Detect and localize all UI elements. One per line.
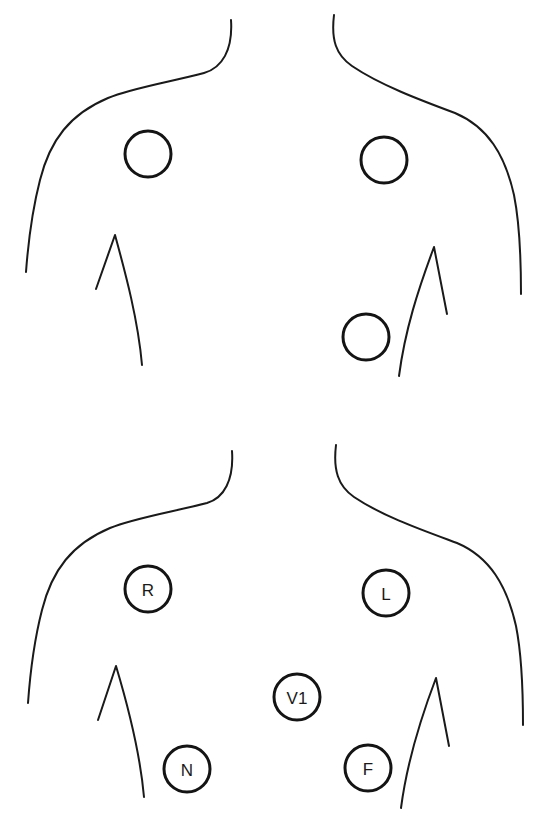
bottom-right-rib-outline xyxy=(401,678,449,808)
bottom-torso-panel: R L V1 N F xyxy=(28,445,523,808)
electrode-placement-diagram: R L V1 N F xyxy=(0,0,543,829)
electrode-top-right-arm xyxy=(125,131,171,177)
electrode-ring xyxy=(343,314,389,360)
electrode-ring xyxy=(361,137,407,183)
electrode-L: L xyxy=(363,570,409,616)
electrode-N: N xyxy=(164,746,210,792)
electrode-top-lower xyxy=(343,314,389,360)
bottom-left-rib-outline xyxy=(98,666,144,797)
electrode-label-R: R xyxy=(142,581,154,600)
electrode-F: F xyxy=(345,745,391,791)
top-right-rib-outline xyxy=(399,247,447,376)
electrode-top-left-arm xyxy=(361,137,407,183)
electrode-label-V1: V1 xyxy=(287,689,308,708)
top-torso-panel xyxy=(26,15,521,376)
electrode-V1: V1 xyxy=(274,674,320,720)
electrode-R: R xyxy=(125,566,171,612)
top-left-rib-outline xyxy=(96,235,142,365)
electrode-ring xyxy=(125,131,171,177)
electrode-label-N: N xyxy=(181,761,193,780)
electrode-label-F: F xyxy=(363,760,373,779)
electrode-label-L: L xyxy=(381,585,390,604)
